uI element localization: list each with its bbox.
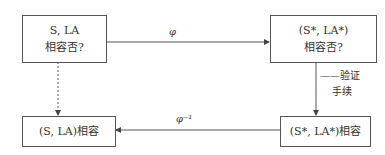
label-line1: ——验证 [320,68,360,84]
box-transformed-compatible-question: (S*, LA*) 相容否? [270,15,377,63]
box-text-line1: (S, LA)相容 [39,123,99,140]
label-phi: φ [169,26,176,37]
label-line2: 手续 [320,84,360,100]
label-verification-procedure: ——验证 手续 [320,68,360,100]
label-phi-inverse: φ⁻¹ [176,113,192,124]
box-text-line1: S, LA [50,22,79,39]
box-text-line1: (S*, LA*) [299,22,348,39]
box-text-line2: 相容否? [304,39,343,56]
box-transformed-compatible: (S*, LA*)相容 [280,116,371,147]
box-original-compatible: (S, LA)相容 [22,116,116,147]
box-text-line1: (S*, LA*)相容 [290,123,361,140]
box-text-line2: 相容否? [45,39,84,56]
box-original-compatible-question: S, LA 相容否? [22,15,107,63]
